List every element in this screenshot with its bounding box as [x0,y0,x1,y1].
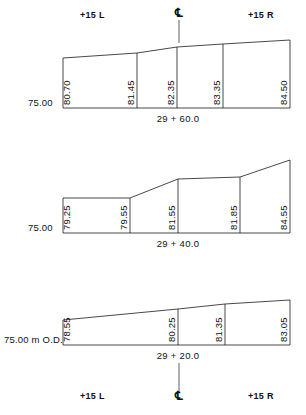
section-29-20-level-3: 83.05 [278,317,289,342]
bottom-left-offset-label: +15 L [80,391,105,401]
centerline-symbol-bottom: ℄ [174,389,183,403]
section-29-40-level-1: 79.55 [118,205,129,230]
section-29-20-datum-label: 75.00 m O.D. [4,334,63,345]
top-left-offset-label: +15 L [80,10,105,20]
section-29-60-level-1: 81.45 [125,80,136,105]
section-29-60-level-3: 83.35 [211,80,222,105]
header-offset-row: +15 L ℄ +15 R [80,6,274,43]
section-29-40: 79.25 79.55 81.55 81.85 84.55 75.00 29 +… [28,160,290,249]
section-29-40-level-0: 79.25 [61,205,72,230]
footer-offset-row: ℄ +15 L +15 R [80,363,274,403]
section-29-60-datum-label: 75.00 [28,97,53,108]
section-29-60-level-4: 84.50 [278,80,289,105]
section-29-60: 80.70 81.45 82.35 83.35 84.50 75.00 29 +… [28,40,290,124]
section-29-40-chainage-label: 29 + 40.0 [157,238,200,249]
section-29-60-level-2: 82.35 [165,80,176,105]
section-29-40-level-4: 84.55 [278,205,289,230]
section-29-60-outline [63,40,290,108]
section-29-20-level-1: 80.25 [166,317,177,342]
section-29-40-level-2: 81.55 [166,205,177,230]
bottom-right-offset-label: +15 R [248,391,274,401]
section-29-40-level-3: 81.85 [228,205,239,230]
section-29-60-level-0: 80.70 [61,80,72,105]
top-right-offset-label: +15 R [248,10,274,20]
section-29-20: 78.55 80.25 81.35 83.05 75.00 m O.D. 29 … [4,300,290,361]
cross-section-drawing-sheet: +15 L ℄ +15 R 80.70 81.45 82.35 83.35 84… [0,0,306,415]
section-29-40-datum-label: 75.00 [28,222,53,233]
section-29-20-level-2: 81.35 [213,317,224,342]
section-29-20-chainage-label: 29 + 20.0 [157,350,200,361]
section-29-60-chainage-label: 29 + 60.0 [157,113,200,124]
centerline-symbol-top: ℄ [174,6,183,20]
